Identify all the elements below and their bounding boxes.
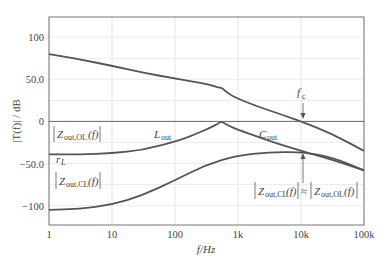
svg-text:L: L <box>153 128 160 140</box>
svg-text:Z: Z <box>314 185 321 197</box>
y-tick-label: −100 <box>22 201 44 212</box>
svg-text:c: c <box>302 92 306 101</box>
svg-text:≈: ≈ <box>301 185 307 197</box>
x-tick-label: 10k <box>293 229 310 240</box>
svg-text:(f): (f) <box>88 175 99 188</box>
zout-ol-label: Z out,OL (f) <box>54 126 100 142</box>
y-tick-label: −50.0 <box>20 159 44 170</box>
svg-text:out,OL: out,OL <box>64 133 87 142</box>
x-tick-label: 10 <box>107 229 118 240</box>
y-tick-labels: 10050.00−50.0−100 <box>20 32 44 211</box>
svg-text:C: C <box>259 128 267 140</box>
x-axis-label: f/Hz <box>197 243 216 255</box>
y-tick-label: 100 <box>28 32 44 43</box>
svg-text:out,CL: out,CL <box>66 180 89 189</box>
lout-label: L out <box>153 128 172 142</box>
approx-annotation: Z out,CL (f) ≈ Z out,OL (f) <box>255 153 357 199</box>
x-tick-label: 1 <box>46 229 51 240</box>
svg-text:out: out <box>161 133 172 142</box>
bode-chart: 1101001k10k100k 10050.00−50.0−100 |T(f)|… <box>0 0 386 264</box>
cout-label: C out <box>259 128 278 142</box>
x-tick-label: 1k <box>233 229 244 240</box>
svg-text:(f): (f) <box>344 185 355 198</box>
x-tick-label: 100 <box>167 229 183 240</box>
svg-text:out,OL: out,OL <box>321 190 344 199</box>
y-axis-label: |T(f)| / dB <box>10 99 23 143</box>
x-tick-labels: 1101001k10k100k <box>46 229 375 240</box>
svg-text:out,CL: out,CL <box>265 190 288 199</box>
svg-text:(f): (f) <box>286 185 297 198</box>
svg-text:L: L <box>60 158 66 167</box>
y-tick-label: 0 <box>39 116 44 127</box>
x-tick-label: 100k <box>354 229 376 240</box>
svg-text:Z: Z <box>57 128 64 140</box>
svg-text:(f): (f) <box>88 128 99 141</box>
zout-cl-label: Z out,CL (f) <box>56 172 100 189</box>
svg-text:Z: Z <box>258 185 265 197</box>
svg-text:out: out <box>267 133 278 142</box>
y-tick-label: 50.0 <box>26 74 44 85</box>
svg-text:Z: Z <box>59 175 66 187</box>
